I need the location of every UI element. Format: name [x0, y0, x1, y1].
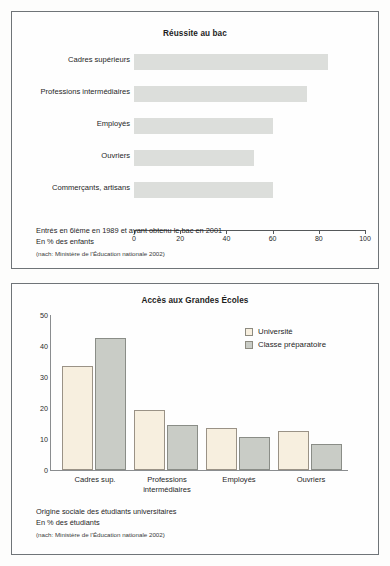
- figure-page: Réussite au bac Cadres supérieursProfess…: [0, 0, 390, 566]
- legend-label: Classe préparatoire: [258, 340, 326, 349]
- legend-item: Classe préparatoire: [245, 340, 326, 349]
- top-chart-x-tick: [226, 230, 227, 234]
- bottom-chart-y-tick-label: 10: [26, 435, 48, 444]
- top-bar: [134, 86, 307, 102]
- top-bar: [134, 54, 328, 70]
- top-chart-source: (nach: Ministère de l'Éducation national…: [36, 250, 165, 257]
- top-caption-line-2: En % des enfants: [36, 236, 222, 247]
- y-axis-line: [50, 315, 51, 470]
- bottom-chart-caption: Origine sociale des étudiants universita…: [36, 506, 177, 528]
- top-bar: [134, 118, 273, 134]
- top-bar-row: Ouvriers: [12, 150, 378, 166]
- bottom-bar-group: [62, 315, 128, 470]
- top-chart-x-tick-label: 40: [222, 235, 230, 242]
- top-bar-label: Ouvriers: [12, 151, 130, 160]
- top-chart-plot-area: Cadres supérieursProfessions intermédiai…: [12, 50, 378, 205]
- top-bar: [134, 182, 273, 198]
- bottom-chart-legend: UniversitéClasse préparatoire: [245, 327, 326, 353]
- bottom-bar-group: [134, 315, 200, 470]
- bar-classe-preparatoire: [167, 425, 198, 470]
- top-chart-x-tick: [273, 230, 274, 234]
- bar-classe-preparatoire: [95, 338, 126, 470]
- category-label-line-1: Ouvriers: [259, 475, 363, 485]
- legend-swatch-icon: [245, 328, 253, 336]
- bottom-chart-title: Accès aux Grandes Écoles: [12, 296, 378, 305]
- bottom-caption-line-2: En % des étudiants: [36, 517, 177, 528]
- bar-universite: [278, 431, 309, 470]
- legend-item: Université: [245, 327, 326, 336]
- legend-label: Université: [258, 327, 293, 336]
- bottom-chart-y-tick-label: 50: [26, 311, 48, 320]
- bar-universite: [62, 366, 93, 470]
- bar-classe-preparatoire: [311, 444, 342, 470]
- bar-classe-preparatoire: [239, 437, 270, 470]
- chart-panel-acces-grandes-ecoles: Accès aux Grandes Écoles 50403020100Cadr…: [11, 283, 379, 555]
- bottom-chart-y-tick-label: 40: [26, 342, 48, 351]
- bar-universite: [206, 428, 237, 470]
- top-chart-x-tick-label: 100: [359, 235, 371, 242]
- top-bar-row: Commerçants, artisans: [12, 182, 378, 198]
- bottom-chart-source: (nach: Ministère de l'Éducation national…: [36, 531, 165, 538]
- category-label-line-2: intermédiaires: [115, 485, 219, 495]
- x-axis-line: [50, 470, 348, 471]
- top-bar-label: Employés: [12, 119, 130, 128]
- top-chart-x-tick-label: 80: [315, 235, 323, 242]
- top-bar-label: Cadres supérieurs: [12, 55, 130, 64]
- top-bar-label: Commerçants, artisans: [12, 183, 130, 192]
- bottom-chart-y-tick-label: 30: [26, 373, 48, 382]
- top-chart-caption: Entrés en 6ième en 1989 et ayant obtenu …: [36, 225, 222, 247]
- top-bar-row: Cadres supérieurs: [12, 54, 378, 70]
- bottom-chart-y-tick-label: 20: [26, 404, 48, 413]
- top-chart-x-tick: [319, 230, 320, 234]
- top-chart-x-tick-label: 60: [269, 235, 277, 242]
- bar-universite: [134, 410, 165, 470]
- top-caption-line-1: Entrés en 6ième en 1989 et ayant obtenu …: [36, 225, 222, 236]
- top-bar-row: Professions intermédiaires: [12, 86, 378, 102]
- top-bar-row: Employés: [12, 118, 378, 134]
- top-chart-title: Réussite au bac: [12, 29, 378, 38]
- chart-panel-reussite-au-bac: Réussite au bac Cadres supérieursProfess…: [11, 11, 379, 269]
- top-bar-label: Professions intermédiaires: [12, 87, 130, 96]
- bottom-caption-line-1: Origine sociale des étudiants universita…: [36, 506, 177, 517]
- bottom-chart-y-tick-label: 0: [26, 466, 48, 475]
- legend-swatch-icon: [245, 341, 253, 349]
- top-bar: [134, 150, 254, 166]
- top-chart-x-tick: [365, 230, 366, 234]
- bottom-chart-category-label: Ouvriers: [259, 475, 363, 485]
